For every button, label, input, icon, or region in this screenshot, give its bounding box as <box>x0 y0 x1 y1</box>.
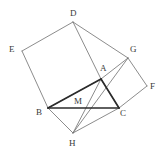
segment-B-H <box>48 108 73 133</box>
geometry-figure: DEGAFBMCH <box>0 0 166 158</box>
vertex-label-e: E <box>9 45 15 54</box>
segment-D-G <box>73 22 128 58</box>
segment-G-F <box>128 58 147 86</box>
figure-canvas <box>0 0 166 158</box>
vertex-label-d: D <box>70 9 77 18</box>
vertex-label-a: A <box>100 64 107 73</box>
vertex-label-g: G <box>130 45 137 54</box>
vertex-label-c: C <box>120 109 126 118</box>
segment-B-E <box>22 51 48 108</box>
vertex-label-m: M <box>74 97 82 106</box>
segment-F-C <box>119 86 147 108</box>
segment-D-A <box>73 22 101 79</box>
vertex-label-f: F <box>150 82 155 91</box>
vertex-label-b: B <box>36 108 42 117</box>
triangle-abc-group <box>48 79 119 108</box>
segment-A-C <box>101 79 119 108</box>
vertex-label-h: H <box>69 139 76 148</box>
segment-E-D <box>22 22 73 51</box>
